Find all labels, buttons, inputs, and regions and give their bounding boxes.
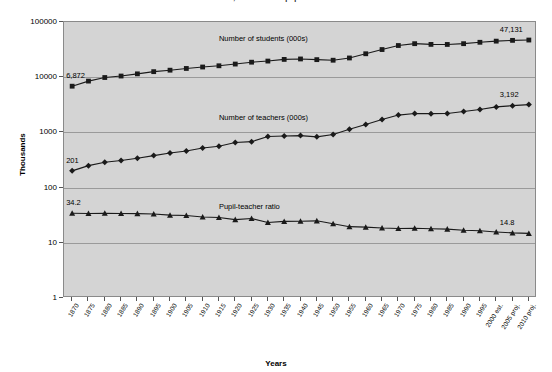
series-end-label: 14.8: [500, 218, 515, 227]
y-tick-label: 10: [0, 237, 57, 246]
data-point-marker: [216, 143, 222, 149]
data-point-marker: [510, 103, 516, 109]
x-tick-mark: [267, 297, 268, 301]
data-point-marker: [200, 145, 206, 151]
data-point-marker: [233, 62, 238, 67]
series-name-label: Pupil-teacher ratio: [219, 202, 280, 211]
x-tick-label: 1955: [344, 302, 358, 318]
data-point-marker: [265, 133, 271, 139]
x-tick-mark: [169, 297, 170, 301]
x-tick-mark: [283, 297, 284, 301]
data-point-marker: [444, 110, 450, 116]
series-start-label: 201: [66, 156, 79, 165]
series-start-label: 34.2: [66, 198, 81, 207]
x-tick-mark: [71, 297, 72, 301]
data-point-marker: [119, 74, 124, 79]
x-tick-mark: [136, 297, 137, 301]
y-tick-mark: [59, 131, 63, 132]
data-point-marker: [412, 41, 417, 46]
x-tick-label: 1880: [99, 302, 113, 318]
x-tick-label: 1920: [230, 302, 244, 318]
data-point-marker: [461, 108, 467, 114]
data-point-marker: [347, 56, 352, 61]
data-point-marker: [151, 69, 156, 74]
data-point-marker: [102, 159, 108, 165]
x-tick-label: 1870: [66, 302, 80, 318]
data-point-marker: [412, 111, 418, 117]
x-tick-label: 1910: [197, 302, 211, 318]
data-point-marker: [314, 134, 320, 140]
x-tick-mark: [348, 297, 349, 301]
y-tick-label: 100000: [0, 17, 57, 26]
data-point-marker: [282, 57, 287, 62]
x-tick-mark: [120, 297, 121, 301]
data-point-marker: [493, 104, 499, 110]
data-point-marker: [249, 139, 255, 145]
x-tick-mark: [446, 297, 447, 301]
data-point-marker: [379, 117, 385, 123]
data-point-marker: [363, 122, 369, 128]
data-point-marker: [314, 57, 319, 62]
data-point-marker: [183, 148, 189, 154]
data-point-marker: [298, 133, 304, 139]
series-line: [72, 40, 529, 86]
data-point-marker: [346, 126, 352, 132]
x-tick-label: 1915: [213, 302, 227, 318]
x-tick-label: 1995: [474, 302, 488, 318]
x-tick-label: 1940: [295, 302, 309, 318]
data-point-marker: [330, 132, 336, 138]
y-tick-mark: [59, 242, 63, 243]
x-tick-label: 1980: [425, 302, 439, 318]
x-tick-mark: [414, 297, 415, 301]
x-tick-mark: [430, 297, 431, 301]
x-tick-label: 1970: [393, 302, 407, 318]
x-tick-mark: [495, 297, 496, 301]
data-point-marker: [86, 79, 91, 84]
data-point-marker: [331, 58, 336, 63]
x-tick-label: 1935: [279, 302, 293, 318]
x-tick-mark: [528, 297, 529, 301]
x-tick-mark: [234, 297, 235, 301]
x-tick-label: 1965: [376, 302, 390, 318]
series-end-label: 47,131: [500, 25, 523, 34]
x-tick-label: 1875: [83, 302, 97, 318]
data-point-marker: [478, 40, 483, 45]
chart-root: Students, teachers and pupil-teacher rat…: [0, 0, 552, 372]
x-tick-mark: [202, 297, 203, 301]
data-point-marker: [118, 157, 124, 163]
x-tick-mark: [185, 297, 186, 301]
x-tick-label: 1925: [246, 302, 260, 318]
data-point-marker: [184, 66, 189, 71]
data-point-marker: [395, 112, 401, 118]
x-tick-mark: [87, 297, 88, 301]
series-end-label: 3,192: [500, 90, 519, 99]
x-tick-mark: [479, 297, 480, 301]
data-point-marker: [396, 43, 401, 48]
x-tick-label: 1895: [148, 302, 162, 318]
x-axis-title: Years: [0, 359, 552, 368]
x-tick-mark: [316, 297, 317, 301]
y-tick-label: 1000: [0, 127, 57, 136]
y-tick-mark: [59, 297, 63, 298]
series-name-label: Number of students (000s): [219, 34, 308, 43]
chart-title: Students, teachers and pupil-teacher rat…: [0, 0, 552, 2]
data-point-marker: [265, 59, 270, 64]
y-tick-mark: [59, 76, 63, 77]
data-point-marker: [151, 153, 157, 159]
x-tick-label: 1930: [262, 302, 276, 318]
y-tick-label: 1: [0, 293, 57, 302]
data-point-marker: [494, 39, 499, 44]
data-point-marker: [167, 150, 173, 156]
x-tick-label: 1960: [360, 302, 374, 318]
data-point-marker: [510, 38, 515, 43]
x-tick-label: 1900: [164, 302, 178, 318]
data-point-marker: [429, 42, 434, 47]
x-tick-mark: [332, 297, 333, 301]
data-point-marker: [70, 84, 75, 89]
x-tick-mark: [463, 297, 464, 301]
data-point-marker: [249, 60, 254, 65]
x-tick-mark: [251, 297, 252, 301]
data-point-marker: [135, 71, 140, 76]
x-tick-label: 1945: [311, 302, 325, 318]
x-tick-mark: [381, 297, 382, 301]
